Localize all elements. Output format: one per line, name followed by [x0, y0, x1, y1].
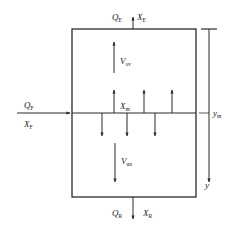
depth-axis-label: y — [204, 180, 209, 190]
downflow-velocity-label: Vun — [121, 156, 132, 167]
overflow-q-label: QE — [112, 12, 123, 23]
overflow-x-label: XE — [136, 12, 147, 23]
underflow-x-label: XR — [142, 208, 153, 219]
settling-column-diagram: QE XE QF XF Vov Xm Vun QR XR ym y — [0, 0, 235, 233]
feed-x-label: XF — [23, 119, 33, 130]
underflow-q-label: QR — [112, 208, 123, 219]
upflow-velocity-label: Vov — [120, 56, 131, 67]
interface-x-label: Xm — [119, 101, 131, 112]
feed-q-label: QF — [24, 100, 34, 111]
feed-level-y-label: ym — [212, 108, 222, 119]
